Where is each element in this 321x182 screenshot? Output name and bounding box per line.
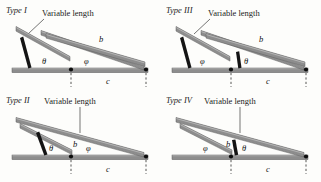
link-label-b-type-2: b <box>73 139 77 149</box>
panel-title-type-1: Type I <box>6 5 28 15</box>
ground-link-type-4 <box>172 155 308 160</box>
link-label-c-type-3: c <box>266 76 270 86</box>
pivot-mid-type-3 <box>229 67 233 71</box>
ground-link-type-3 <box>172 68 308 73</box>
link-label-c-type-2: c <box>106 164 110 174</box>
pivot-mid-type-1 <box>69 67 73 71</box>
panel-title-type-3: Type III <box>166 5 194 15</box>
angle-theta-type-3: θ <box>244 56 248 66</box>
angle-theta-type-1: θ <box>42 56 46 66</box>
link-label-c-type-1: c <box>106 76 110 86</box>
link-label-b-type-4: b <box>226 139 230 149</box>
angle-theta-type-4: θ <box>242 143 246 153</box>
ground-link-type-2 <box>12 155 148 160</box>
angle-phi-type-4: φ <box>203 143 208 153</box>
panel-title-type-2: Type II <box>6 95 31 105</box>
panel-type-4: Type IV Variable length φ θ b c <box>166 95 308 174</box>
four-bar-linkage-figure: Type I Variable length θ <box>0 0 321 182</box>
variable-length-label-type-2: Variable length <box>44 96 96 106</box>
crank-arm-type-4 <box>232 139 238 155</box>
variable-length-label-type-1: Variable length <box>42 8 94 18</box>
variable-length-label-type-4: Variable length <box>204 96 256 106</box>
panel-type-3: Type III Variable length φ θ b c <box>166 5 308 87</box>
pivot-mid-type-2 <box>69 154 73 158</box>
link-label-b-type-3: b <box>259 34 263 44</box>
pivot-right-type-4 <box>304 154 308 158</box>
panel-type-1: Type I Variable length θ <box>6 5 148 87</box>
pivot-right-type-2 <box>144 154 148 158</box>
link-label-c-type-4: c <box>266 164 270 174</box>
crank-arm-right-type-3 <box>236 51 242 68</box>
ground-link-type-1 <box>12 68 148 73</box>
angle-phi-type-3: φ <box>200 56 205 66</box>
rocker-link-type-1 <box>46 34 145 67</box>
pivot-right-type-3 <box>304 67 308 71</box>
link-label-b-type-1: b <box>99 34 103 44</box>
variable-length-label-type-3: Variable length <box>208 8 260 18</box>
pivot-right-type-1 <box>144 67 148 71</box>
panel-type-2: Type II Variable length θ φ b c <box>6 95 148 174</box>
crank-arm-left-type-3 <box>180 37 192 69</box>
rocker-link-type-3 <box>206 34 305 67</box>
angle-phi-type-2: φ <box>86 143 91 153</box>
angle-phi-type-1: φ <box>84 56 89 66</box>
panel-title-type-4: Type IV <box>166 95 194 105</box>
crank-arm-type-1 <box>20 37 32 69</box>
pivot-mid-type-4 <box>229 154 233 158</box>
angle-theta-type-2: θ <box>49 143 53 153</box>
